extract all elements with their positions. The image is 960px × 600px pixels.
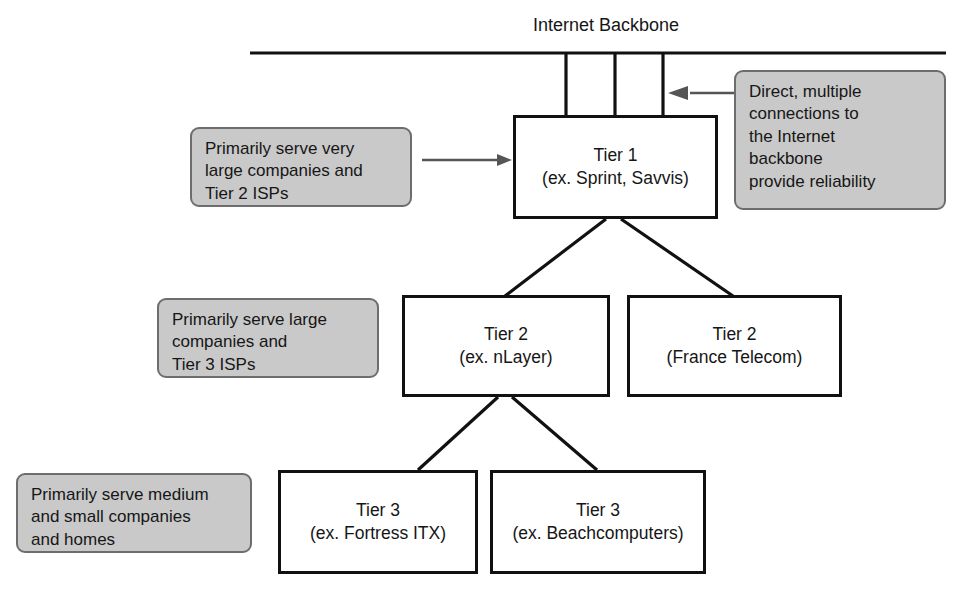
callout-tier1-left[interactable]: Primarily serve very large companies and…	[190, 127, 412, 207]
node-tier3-beachcomputers[interactable]: Tier 3 (ex. Beachcomputers)	[490, 470, 706, 574]
callout-tier2[interactable]: Primarily serve large companies and Tier…	[157, 298, 379, 378]
node-tier3-beachcomputers-line2: (ex. Beachcomputers)	[512, 522, 683, 545]
node-tier2-nlayer-line2: (ex. nLayer)	[459, 346, 552, 369]
arrow-head-callout-tier1-left	[497, 154, 512, 166]
edge-tier1-to-tier2-nlayer	[505, 219, 606, 296]
backbone-title-label: Internet Backbone	[533, 15, 679, 36]
callout-tier3[interactable]: Primarily serve medium and small compani…	[16, 473, 252, 553]
node-tier3-beachcomputers-line1: Tier 3	[576, 499, 620, 522]
node-tier2-nlayer-line1: Tier 2	[484, 323, 528, 346]
node-tier3-fortress[interactable]: Tier 3 (ex. Fortress ITX)	[278, 470, 478, 574]
isp-tier-hierarchy-diagram: Internet Backbone Tier 1 (ex. Sprint, Sa…	[0, 0, 960, 600]
node-tier1-line2: (ex. Sprint, Savvis)	[542, 167, 689, 190]
node-tier2-nlayer[interactable]: Tier 2 (ex. nLayer)	[402, 295, 610, 397]
node-tier2-france-telecom-line2: (France Telecom)	[667, 346, 803, 369]
node-tier3-fortress-line2: (ex. Fortress ITX)	[310, 522, 446, 545]
edge-tier2-to-tier3-beach	[512, 397, 597, 470]
node-tier2-france-telecom-line1: Tier 2	[712, 323, 756, 346]
edge-tier1-to-tier2-france	[621, 219, 733, 296]
node-tier3-fortress-line1: Tier 3	[356, 499, 400, 522]
arrow-head-callout-tier1-right	[668, 86, 688, 100]
node-tier1-line1: Tier 1	[593, 144, 637, 167]
callout-tier1-right[interactable]: Direct, multiple connections to the Inte…	[734, 70, 946, 210]
node-tier1[interactable]: Tier 1 (ex. Sprint, Savvis)	[513, 115, 718, 219]
node-tier2-france-telecom[interactable]: Tier 2 (France Telecom)	[627, 295, 842, 397]
edge-tier2-to-tier3-fortress	[418, 397, 498, 470]
